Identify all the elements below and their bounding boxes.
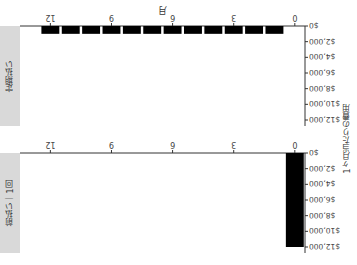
x-tick-label: 3 <box>231 140 236 149</box>
y-tick-label: $4,000 <box>309 52 335 61</box>
x-tick-label: 6 <box>170 13 175 22</box>
bar <box>103 26 121 34</box>
y-tick-label: $10,000 <box>309 99 340 108</box>
bar <box>41 26 59 34</box>
x-tick-label: 9 <box>109 140 114 149</box>
y-tick-label: $10,000 <box>309 226 340 235</box>
y-tick-label: $8,000 <box>309 211 335 220</box>
bar <box>164 26 182 34</box>
y-tick-label: $2,000 <box>309 164 335 173</box>
x-tick-label: 12 <box>45 13 55 22</box>
facet-label: 定期払い <box>6 60 15 93</box>
x-tick-label: 0 <box>292 140 297 149</box>
y-tick-label: $0 <box>309 21 319 30</box>
bar <box>143 26 161 34</box>
bar <box>286 153 304 247</box>
x-axis-title: 月 <box>158 5 167 15</box>
y-tick-label: $6,000 <box>309 68 335 77</box>
facet-label: 前払い｜1回 <box>6 179 15 226</box>
x-tick-label: 9 <box>109 13 114 22</box>
bar <box>265 26 283 34</box>
y-tick-label: $12,000 <box>309 242 340 251</box>
x-tick-label: 3 <box>231 13 236 22</box>
faceted-bar-chart: 前払い｜1回$0$2,000$4,000$6,000$8,000$10,000$… <box>0 0 357 265</box>
bar <box>204 26 222 34</box>
y-tick-label: $4,000 <box>309 179 335 188</box>
y-tick-label: $2,000 <box>309 37 335 46</box>
bar <box>225 26 243 34</box>
y-tick-label: $6,000 <box>309 195 335 204</box>
y-tick-label: $8,000 <box>309 84 335 93</box>
bar <box>82 26 100 34</box>
y-tick-label: $0 <box>309 148 319 157</box>
bar <box>184 26 202 34</box>
x-tick-label: 12 <box>45 140 55 149</box>
x-tick-label: 6 <box>170 140 175 149</box>
bar <box>62 26 80 34</box>
x-tick-label: 0 <box>292 13 297 22</box>
y-axis-title: 1ヶ月当たりの費用 <box>343 103 352 173</box>
y-tick-label: $12,000 <box>309 115 340 124</box>
chart-stage: 前払い｜1回$0$2,000$4,000$6,000$8,000$10,000$… <box>0 0 357 265</box>
bar <box>123 26 141 34</box>
bar <box>245 26 263 34</box>
